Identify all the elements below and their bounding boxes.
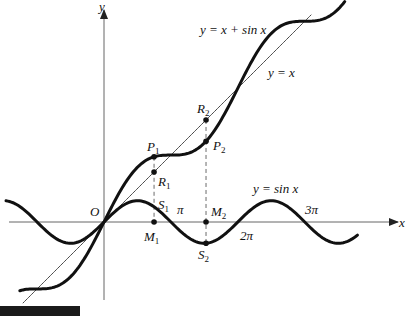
label-m1: M1 <box>143 229 159 246</box>
figure-diagram: x y O y = x + sin x y = x y = sin x π 2π… <box>0 0 406 316</box>
x-axis-label: x <box>398 215 405 230</box>
tick-label-2pi: 2π <box>240 228 254 243</box>
label-m2: M2 <box>210 204 226 221</box>
origin-label: O <box>90 204 100 219</box>
point-r2 <box>203 117 209 123</box>
label-p1: P1 <box>146 139 159 156</box>
label-s2: S2 <box>198 247 209 264</box>
y-axis-label: y <box>97 0 105 14</box>
point-r1 <box>151 169 157 175</box>
label-r2: R2 <box>196 101 209 118</box>
curve-x-plus-sin-x <box>20 2 345 291</box>
tick-label-pi: π <box>177 202 184 217</box>
point-m1 <box>151 219 157 225</box>
point-labels: P1R1S1M1R2P2M2S2 <box>143 101 226 264</box>
tick-label-3pi: 3π <box>304 202 319 217</box>
label-r1: R1 <box>157 174 170 191</box>
point-m2 <box>203 219 209 225</box>
label-s1: S1 <box>158 197 169 214</box>
label-sin-x: y = sin x <box>251 181 298 196</box>
label-x-plus-sin-x: y = x + sin x <box>198 22 267 37</box>
figure-caption-tag <box>0 306 80 316</box>
point-s2 <box>203 240 209 246</box>
point-p2 <box>203 138 209 144</box>
label-p2: P2 <box>212 138 225 155</box>
line-y-equals-x <box>23 15 311 303</box>
label-y-equals-x: y = x <box>266 65 295 80</box>
